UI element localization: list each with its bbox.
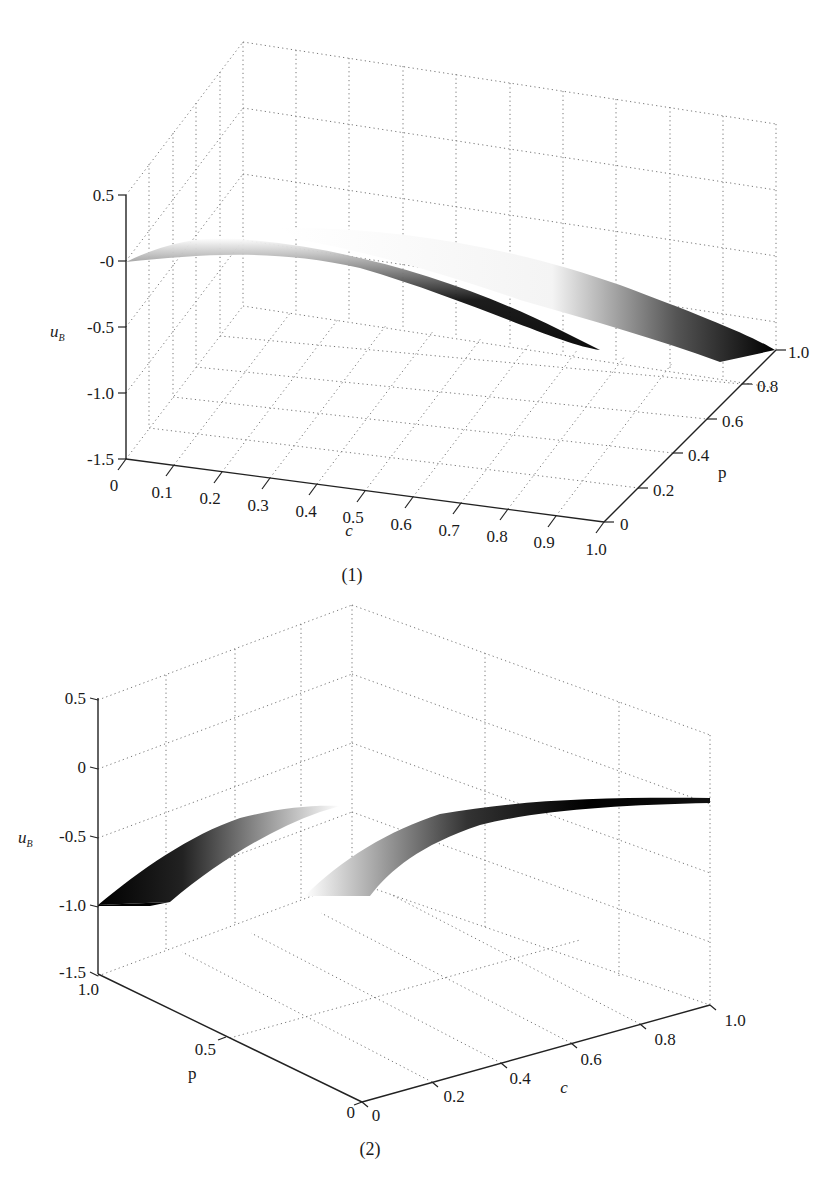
plot-1-c-axis xyxy=(126,459,604,522)
plot-1-surface xyxy=(126,228,775,362)
plot-2-z-axis-label: uB xyxy=(18,828,33,849)
z-tick-label: 0.5 xyxy=(93,186,114,205)
c-tick-label: 0 xyxy=(372,1106,381,1125)
c-tick-label: 0.2 xyxy=(199,489,220,508)
plot-2-c-axis-label: c xyxy=(560,1078,568,1097)
plot-1-z-axis-label: uB xyxy=(50,322,65,343)
c-tick-label: 0.7 xyxy=(438,521,460,540)
figure-canvas: 0.5 -0 -0.5 -1.0 -1.5 uB 0 0.1 0.2 0.3 0… xyxy=(0,0,816,1185)
c-tick-label: 0.8 xyxy=(486,527,507,546)
c-tick-label: 1.0 xyxy=(724,1011,745,1030)
plot-1-c-tick-labels: 0 0.1 0.2 0.3 0.4 0.5 0.6 0.7 0.8 0.9 1.… xyxy=(110,476,607,559)
plot-1: 0.5 -0 -0.5 -1.0 -1.5 uB 0 0.1 0.2 0.3 0… xyxy=(50,42,809,586)
c-tick-label: 0.2 xyxy=(443,1087,464,1106)
plot-2-c-tick-labels: 0 0.2 0.4 0.6 0.8 1.0 xyxy=(372,1011,746,1125)
p-tick-label: 0.4 xyxy=(688,446,710,465)
plot-2: 0.5 0 -0.5 -1.0 -1.5 uB 0 0.5 1.0 p 0 0.… xyxy=(18,605,746,1160)
plot-2-p-axis xyxy=(98,974,362,1102)
plot-1-p-axis-label: p xyxy=(718,463,727,482)
plot-2-caption: (2) xyxy=(360,1139,381,1160)
c-tick-label: 0.1 xyxy=(151,483,172,502)
c-tick-label: 0.3 xyxy=(247,496,268,515)
plot-2-p-axis-label: p xyxy=(188,1064,197,1083)
c-tick-label: 0.4 xyxy=(509,1069,531,1088)
c-tick-label: 0 xyxy=(110,476,119,495)
plot-2-surface xyxy=(98,798,710,906)
c-tick-label: 0.6 xyxy=(390,515,411,534)
z-tick-label: -0.5 xyxy=(87,318,114,337)
z-tick-label: -1.0 xyxy=(87,384,114,403)
p-tick-label: 0.5 xyxy=(195,1040,216,1059)
z-tick-label: -1.5 xyxy=(87,450,114,469)
plot-2-z-tick-labels: 0.5 0 -0.5 -1.0 -1.5 xyxy=(59,689,86,982)
c-tick-label: 0.8 xyxy=(654,1030,675,1049)
p-tick-label: 0.8 xyxy=(757,377,778,396)
plot-1-z-tick-labels: 0.5 -0 -0.5 -1.0 -1.5 xyxy=(87,186,114,469)
plot-2-p-tick-labels: 0 0.5 1.0 xyxy=(78,980,355,1122)
p-tick-label: 0.6 xyxy=(722,412,743,431)
c-tick-label: 0.9 xyxy=(533,533,554,552)
p-tick-label: 1.0 xyxy=(788,343,809,362)
plot-1-p-axis xyxy=(604,350,776,522)
p-tick-label: 0 xyxy=(620,515,629,534)
plot-1-caption: (1) xyxy=(342,565,363,586)
z-tick-label: 0 xyxy=(78,758,87,777)
c-tick-label: 0.6 xyxy=(580,1050,601,1069)
plot-2-c-axis xyxy=(362,1005,710,1102)
z-tick-label: -0.5 xyxy=(59,827,86,846)
plot-2-axes xyxy=(90,698,716,1107)
p-tick-label: 0.2 xyxy=(653,481,674,500)
p-tick-label: 1.0 xyxy=(78,980,99,999)
z-tick-label: -0 xyxy=(100,252,114,271)
c-tick-label: 0.4 xyxy=(295,502,317,521)
plot-1-c-axis-label: c xyxy=(345,521,353,540)
c-tick-label: 1.0 xyxy=(585,540,606,559)
plot-1-grid xyxy=(126,42,776,516)
p-tick-label: 0 xyxy=(347,1103,356,1122)
z-tick-label: 0.5 xyxy=(65,689,86,708)
plot-1-p-tick-labels: 0 0.2 0.4 0.6 0.8 1.0 xyxy=(620,343,809,534)
z-tick-label: -1.0 xyxy=(59,896,86,915)
